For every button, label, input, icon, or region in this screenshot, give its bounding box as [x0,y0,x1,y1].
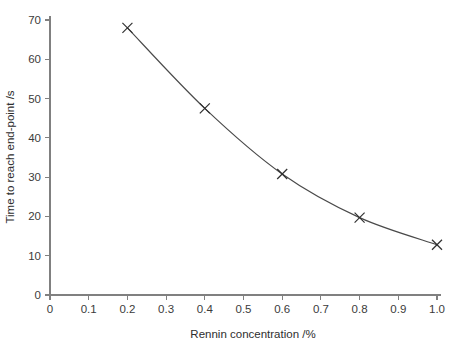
data-markers [122,23,442,250]
x-tick-label: 0.1 [81,303,97,315]
chart-container: 010203040506070 00.10.20.30.40.50.60.70.… [0,0,457,352]
x-tick-label: 0 [47,303,53,315]
y-tick-label: 60 [28,53,41,65]
x-tick-label: 0.8 [352,303,368,315]
y-tick-label: 20 [28,210,41,222]
x-tick-label: 0.3 [158,303,174,315]
y-tick-label: 70 [28,14,41,26]
x-tick-label: 0.2 [119,303,135,315]
x-axis: 00.10.20.30.40.50.60.70.80.91.0 [47,295,445,315]
x-tick-label: 0.6 [274,303,290,315]
x-axis-title: Rennin concentration /% [190,328,315,340]
x-tick-label: 0.9 [390,303,406,315]
x-tick-label: 0.4 [197,303,214,315]
x-tick-label: 0.5 [236,303,252,315]
x-tick-label: 1.0 [429,303,445,315]
y-tick-label: 50 [28,93,41,105]
y-tick-label: 40 [28,132,41,144]
data-point-marker [200,103,210,113]
y-tick-label: 30 [28,171,41,183]
data-point-marker [432,240,442,250]
data-point-marker [122,23,132,33]
chart-plot-area: 010203040506070 00.10.20.30.40.50.60.70.… [0,0,457,352]
y-axis-title: Time to reach end-point /s [4,90,16,223]
y-tick-label: 0 [35,289,41,301]
y-axis: 010203040506070 [28,14,50,301]
data-point-marker [277,169,287,179]
series-line [127,28,437,245]
y-tick-label: 10 [28,250,41,262]
x-tick-label: 0.7 [313,303,329,315]
data-point-marker [355,213,365,223]
data-series [127,28,437,245]
